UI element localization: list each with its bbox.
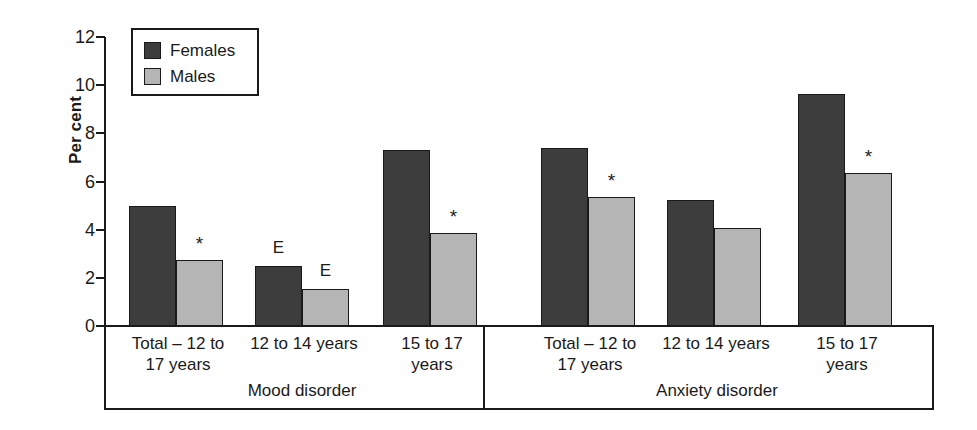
bar-females-group-1 xyxy=(255,266,302,326)
y-axis-tick xyxy=(96,181,105,183)
section-label-1: Anxiety disorder xyxy=(607,381,827,401)
category-label-5: 15 to 17years xyxy=(767,333,927,375)
y-axis-tick-label: 6 xyxy=(51,173,95,191)
y-axis-tick xyxy=(96,36,105,38)
bar-annotation-males-group-2: * xyxy=(441,207,467,226)
bar-annotation-males-group-0: * xyxy=(187,234,213,253)
bar-females-group-2 xyxy=(383,150,430,326)
y-axis-tick xyxy=(96,84,105,86)
section-label-0: Mood disorder xyxy=(192,381,412,401)
bar-chart: Per cent 121086420 FemalesMales *EE*** T… xyxy=(0,0,977,430)
bar-females-group-5 xyxy=(798,94,845,326)
bar-annotation-males-group-3: * xyxy=(599,171,625,190)
category-label-line2: years xyxy=(767,354,927,375)
bar-males-group-2 xyxy=(430,233,477,326)
bar-males-group-1 xyxy=(302,289,349,326)
bar-females-group-0 xyxy=(129,206,176,326)
y-axis-tick xyxy=(96,277,105,279)
y-axis-tick-label: 0 xyxy=(51,317,95,335)
category-label-line2: years xyxy=(352,354,512,375)
bar-males-group-3 xyxy=(588,197,635,326)
category-label-line1: 15 to 17 xyxy=(352,333,512,354)
category-label-2: 15 to 17years xyxy=(352,333,512,375)
category-label-line2: 17 years xyxy=(510,354,670,375)
category-label-line2: 17 years xyxy=(98,354,258,375)
y-axis-tick-label: 10 xyxy=(51,76,95,94)
y-axis-tick-label: 8 xyxy=(51,124,95,142)
y-axis-tick xyxy=(96,229,105,231)
bar-annotation-males-group-5: * xyxy=(856,147,882,166)
bar-males-group-5 xyxy=(845,173,892,326)
y-axis-tick xyxy=(96,132,105,134)
bar-females-group-4 xyxy=(667,200,714,326)
bar-males-group-0 xyxy=(176,260,223,326)
bar-females-group-3 xyxy=(541,148,588,326)
category-label-line1: 15 to 17 xyxy=(767,333,927,354)
bar-annotation-males-group-1: E xyxy=(313,261,339,280)
bar-annotation-females-group-1: E xyxy=(266,238,292,257)
category-label-band: Total – 12 to17 years12 to 14 years15 to… xyxy=(104,327,934,410)
y-axis-tick-label: 12 xyxy=(51,28,95,46)
plot-area: *EE*** xyxy=(106,37,934,326)
y-axis-tick-label: 4 xyxy=(51,221,95,239)
y-axis-tick-label: 2 xyxy=(51,269,95,287)
bar-males-group-4 xyxy=(714,228,761,326)
